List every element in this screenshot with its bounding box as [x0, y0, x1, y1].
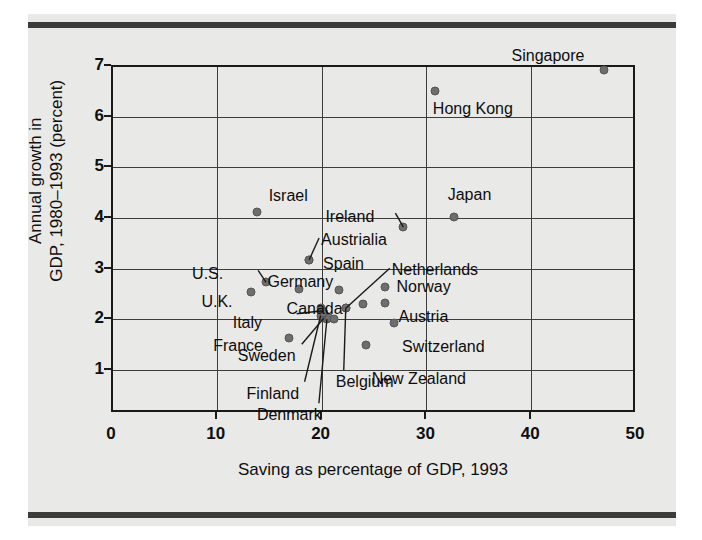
- x-tick-mark: [215, 412, 217, 419]
- point-label-austria: Austria: [399, 309, 449, 325]
- data-point-israel[interactable]: [252, 207, 261, 216]
- y-axis-title: Annual growth in GDP, 1980–1993 (percent…: [26, 16, 67, 346]
- data-point-norway[interactable]: [380, 283, 389, 292]
- gridline-vertical: [531, 67, 532, 410]
- point-label-germany: Germany: [267, 274, 333, 290]
- y-tick-label: 1: [90, 359, 104, 379]
- y-tick-label: 2: [90, 308, 104, 328]
- data-point-ireland[interactable]: [399, 223, 408, 232]
- point-label-ireland: Ireland: [325, 209, 374, 225]
- y-axis-title-line2: GDP, 1980–1993 (percent): [47, 16, 68, 346]
- point-label-belgium: Belgium: [336, 374, 394, 390]
- top-rule: [28, 22, 676, 28]
- point-label-norway: Norway: [397, 279, 451, 295]
- x-tick-label: 20: [311, 424, 330, 444]
- data-point-new-zealand[interactable]: [361, 340, 370, 349]
- data-point-switzerland[interactable]: [389, 319, 398, 328]
- point-label-u-k: U.K.: [201, 294, 232, 310]
- x-tick-label: 30: [416, 424, 435, 444]
- point-label-u-s: U.S.: [192, 266, 223, 282]
- figure-panel: 01020304050 1234567 SingaporeHong KongJa…: [0, 0, 702, 540]
- data-point-unlabeled-cluster-right[interactable]: [358, 300, 367, 309]
- x-tick-mark: [529, 412, 531, 419]
- y-tick-mark: [104, 115, 111, 117]
- point-label-japan: Japan: [448, 187, 492, 203]
- data-point-hong-kong[interactable]: [430, 87, 439, 96]
- y-tick-mark: [104, 317, 111, 319]
- point-label-canada: Canada: [287, 301, 343, 317]
- x-tick-label: 10: [206, 424, 225, 444]
- point-label-denmark: Denmark: [257, 407, 322, 423]
- bottom-rule: [28, 512, 676, 518]
- data-point-austria[interactable]: [380, 299, 389, 308]
- y-tick-mark: [104, 368, 111, 370]
- gridline-horizontal: [113, 117, 633, 118]
- point-label-sweden: Sweden: [238, 348, 296, 364]
- point-label-netherlands: Netherlands: [392, 262, 478, 278]
- gridline-horizontal: [113, 319, 633, 320]
- x-tick-label: 0: [106, 424, 115, 444]
- y-tick-mark: [104, 64, 111, 66]
- y-tick-label: 4: [90, 207, 104, 227]
- point-label-hong-kong: Hong Kong: [433, 101, 513, 117]
- gridline-horizontal: [113, 167, 633, 168]
- data-point-spain[interactable]: [305, 256, 314, 265]
- page-margin-left: [0, 0, 28, 540]
- data-point-france[interactable]: [285, 333, 294, 342]
- y-tick-label: 7: [90, 55, 104, 75]
- point-label-austrialia: Austrialia: [321, 232, 387, 248]
- point-label-spain: Spain: [323, 256, 364, 272]
- point-label-singapore: Singapore: [512, 48, 585, 64]
- point-label-finland: Finland: [247, 386, 299, 402]
- data-point-japan[interactable]: [449, 212, 458, 221]
- x-axis-title: Saving as percentage of GDP, 1993: [111, 460, 635, 480]
- y-tick-label: 5: [90, 156, 104, 176]
- gridline-vertical: [426, 67, 427, 410]
- point-label-israel: Israel: [269, 188, 308, 204]
- data-point-germany[interactable]: [335, 286, 344, 295]
- x-tick-label: 50: [626, 424, 645, 444]
- page-margin-bottom: [0, 526, 702, 540]
- y-tick-label: 3: [90, 258, 104, 278]
- y-tick-mark: [104, 267, 111, 269]
- x-tick-mark: [424, 412, 426, 419]
- point-label-switzerland: Switzerland: [402, 339, 485, 355]
- y-tick-mark: [104, 165, 111, 167]
- x-tick-label: 40: [521, 424, 540, 444]
- point-label-italy: Italy: [233, 315, 262, 331]
- gridline-horizontal: [113, 269, 633, 270]
- y-tick-label: 6: [90, 106, 104, 126]
- page-margin-top: [0, 0, 702, 14]
- page-margin-right: [676, 0, 702, 540]
- data-point-u-k[interactable]: [247, 288, 256, 297]
- data-point-singapore[interactable]: [599, 66, 608, 75]
- gridline-vertical: [217, 67, 218, 410]
- y-axis-title-line1: Annual growth in: [26, 16, 47, 346]
- y-tick-mark: [104, 216, 111, 218]
